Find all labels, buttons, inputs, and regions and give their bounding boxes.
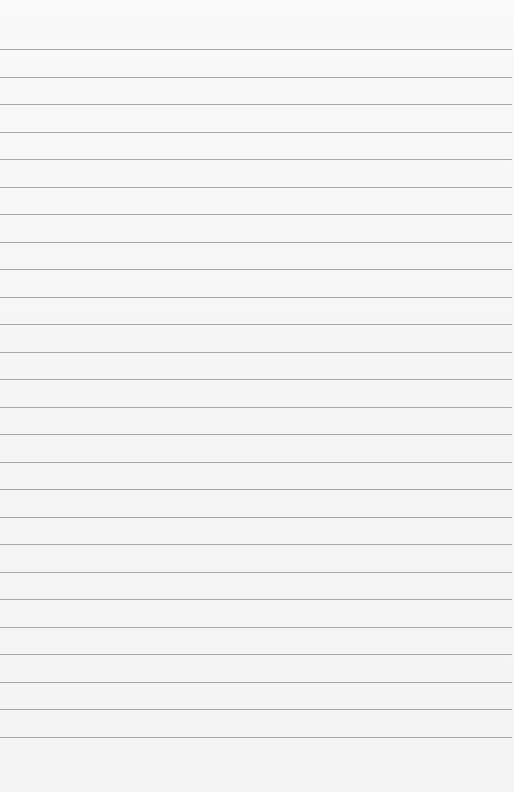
ruled-line <box>0 187 512 188</box>
ruled-line <box>0 709 512 710</box>
ruled-line <box>0 132 512 133</box>
ruled-line <box>0 654 512 655</box>
ruled-line <box>0 682 512 683</box>
ruled-line <box>0 599 512 600</box>
ruled-line <box>0 297 512 298</box>
ruled-line <box>0 434 512 435</box>
ruled-line <box>0 352 512 353</box>
ruled-line <box>0 627 512 628</box>
ruled-line <box>0 407 512 408</box>
ruled-line <box>0 462 512 463</box>
ruled-line <box>0 379 512 380</box>
ruled-line <box>0 77 512 78</box>
ruled-line <box>0 242 512 243</box>
ruled-line <box>0 517 512 518</box>
ruled-line <box>0 737 512 738</box>
ruled-line <box>0 49 512 50</box>
lined-paper-sheet <box>0 0 514 792</box>
ruled-line <box>0 489 512 490</box>
ruled-line <box>0 269 512 270</box>
ruled-line <box>0 159 512 160</box>
ruled-line <box>0 544 512 545</box>
ruled-line <box>0 324 512 325</box>
ruled-line <box>0 572 512 573</box>
ruled-line <box>0 104 512 105</box>
ruled-line <box>0 214 512 215</box>
